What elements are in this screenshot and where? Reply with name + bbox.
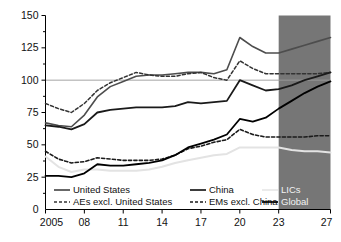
x-tick-label: 11 (118, 216, 129, 228)
x-tick-label: 08 (79, 216, 91, 228)
legend-label: China (209, 184, 235, 195)
x-tick-label: 2005 (40, 216, 64, 228)
chart-container: 0255075100125150 200508111417202327 Unit… (0, 0, 341, 242)
legend-label: Global (281, 196, 308, 207)
y-axis-tick-labels: 0255075100125150 (21, 9, 39, 215)
x-axis-tick-labels: 200508111417202327 (40, 216, 333, 228)
y-tick-label: 25 (27, 171, 39, 183)
legend-label: United States (73, 184, 130, 195)
x-tick-label: 20 (234, 216, 246, 228)
x-tick-label: 23 (273, 216, 285, 228)
x-tick-label: 27 (321, 216, 333, 228)
x-tick-label: 14 (156, 216, 168, 228)
line-chart: 0255075100125150 200508111417202327 Unit… (0, 0, 341, 242)
y-tick-label: 50 (27, 138, 39, 150)
legend-label: LICs (281, 184, 301, 195)
y-tick-label: 75 (27, 106, 39, 118)
x-tick-label: 17 (195, 216, 207, 228)
y-tick-label: 150 (21, 9, 39, 21)
chart-legend: United StatesChinaLICsAEs excl. United S… (54, 184, 308, 207)
y-tick-label: 0 (33, 203, 39, 215)
legend-label: AEs excl. United States (73, 196, 173, 207)
y-tick-label: 125 (21, 41, 39, 53)
y-tick-label: 100 (21, 74, 39, 86)
